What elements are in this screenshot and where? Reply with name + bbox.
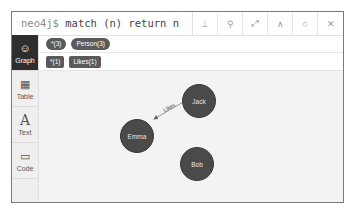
collapse-button[interactable]: ∧: [268, 12, 293, 35]
pin-icon: ⚲: [227, 19, 234, 29]
sidebar-item-label: Table: [17, 93, 34, 100]
graph-canvas[interactable]: Likes Jack Emma Bob: [39, 71, 343, 202]
graph-icon: ☺: [19, 42, 30, 55]
refresh-icon: ○: [302, 19, 307, 29]
relationship-types-row: *(1) Likes(1): [39, 53, 343, 71]
close-icon: ✕: [327, 19, 335, 29]
query-prompt: neo4j$: [21, 17, 59, 29]
chevron-up-icon: ∧: [277, 19, 284, 29]
query-text[interactable]: neo4j$ match (n) return n: [12, 12, 193, 35]
node-labels-row: *(3) Person(3): [39, 35, 343, 53]
sidebar-item-graph[interactable]: ☺ Graph: [12, 35, 38, 71]
sidebar-item-table[interactable]: ▦ Table: [12, 71, 38, 107]
query-command: match (n) return n: [65, 17, 179, 29]
graph-node-bob[interactable]: Bob: [180, 147, 214, 181]
node-label-all[interactable]: *(3): [46, 38, 66, 50]
sidebar-item-label: Text: [19, 129, 32, 136]
result-frame: neo4j$ match (n) return n ⊥ ⚲ ⤢ ∧ ○ ✕ ☺ …: [11, 11, 344, 203]
rerun-button[interactable]: ○: [293, 12, 318, 35]
graph-node-jack[interactable]: Jack: [182, 84, 216, 118]
text-icon: A: [20, 114, 30, 127]
download-button[interactable]: ⊥: [193, 12, 218, 35]
fullscreen-button[interactable]: ⤢: [243, 12, 268, 35]
view-sidebar: ☺ Graph ▦ Table A Text ▭ Code: [12, 35, 39, 202]
sidebar-item-label: Graph: [15, 57, 34, 64]
table-icon: ▦: [20, 78, 30, 91]
node-label-person[interactable]: Person(3): [71, 38, 110, 50]
rel-type-likes[interactable]: Likes(1): [69, 56, 100, 68]
expand-icon: ⤢: [252, 18, 259, 29]
node-caption: Bob: [191, 161, 203, 168]
rel-type-all[interactable]: *(1): [46, 56, 64, 68]
edge-label: Likes: [162, 101, 176, 113]
node-caption: Jack: [192, 98, 205, 105]
sidebar-item-text[interactable]: A Text: [12, 107, 38, 143]
close-button[interactable]: ✕: [318, 12, 343, 35]
node-caption: Emma: [128, 133, 147, 140]
sidebar-item-code[interactable]: ▭ Code: [12, 143, 38, 179]
sidebar-item-label: Code: [17, 165, 34, 172]
code-icon: ▭: [20, 150, 30, 163]
label-rows: *(3) Person(3) *(1) Likes(1): [39, 35, 343, 71]
frame-header: neo4j$ match (n) return n ⊥ ⚲ ⤢ ∧ ○ ✕: [12, 12, 343, 36]
graph-node-emma[interactable]: Emma: [120, 119, 154, 153]
download-icon: ⊥: [201, 19, 209, 29]
pin-button[interactable]: ⚲: [218, 12, 243, 35]
